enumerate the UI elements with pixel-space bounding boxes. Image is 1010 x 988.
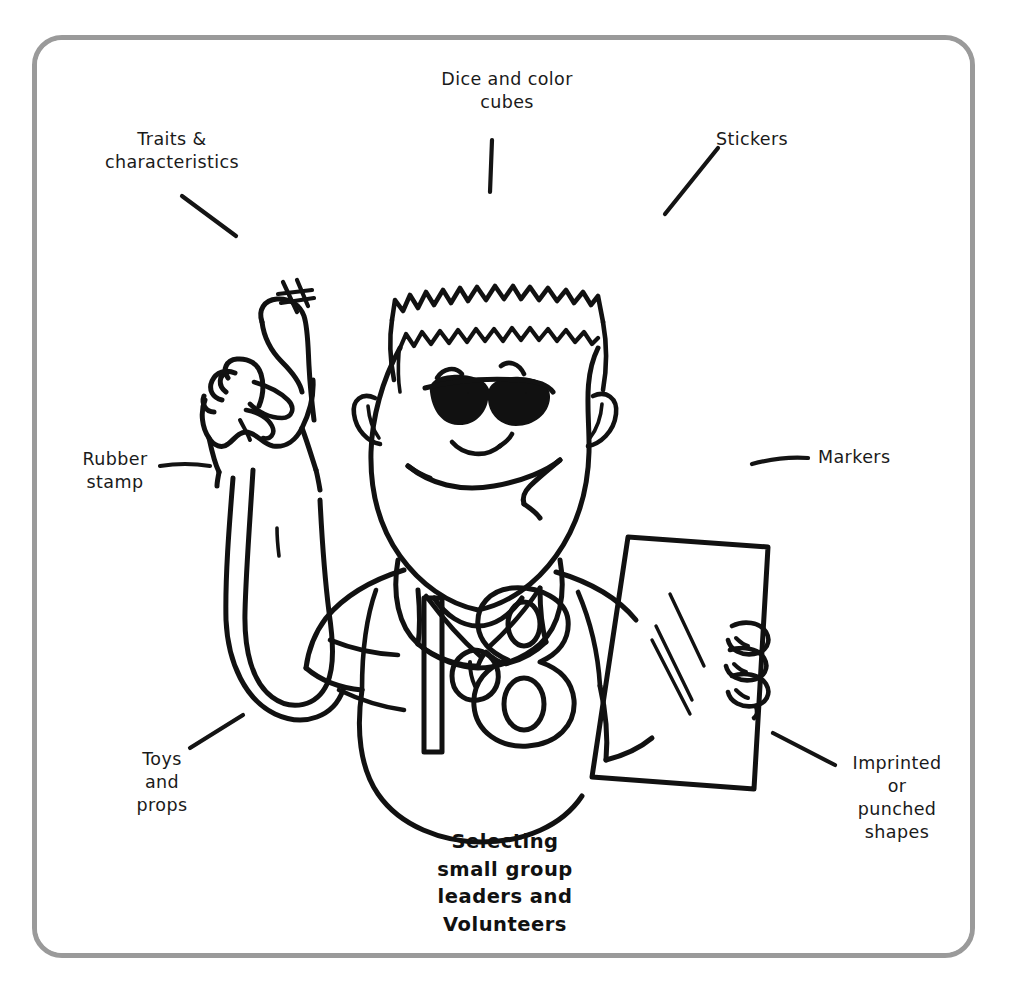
label-dice-and-color-cubes: Dice and color cubes: [412, 68, 602, 114]
label-toys-and-props: Toys and props: [110, 748, 214, 817]
label-markers: Markers: [818, 446, 938, 469]
label-imprinted-or-punched-shapes: Imprinted or punched shapes: [832, 752, 962, 844]
label-stickers: Stickers: [692, 128, 812, 151]
label-rubber-stamp: Rubber stamp: [56, 448, 174, 494]
caption-title: Selecting small group leaders and Volunt…: [295, 828, 715, 939]
illustration-page: Traits & characteristics Dice and color …: [0, 0, 1010, 988]
label-traits-characteristics: Traits & characteristics: [87, 128, 257, 174]
